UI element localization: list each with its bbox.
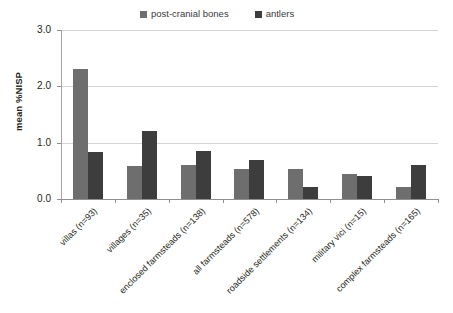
x-axis-label-text: villages (n=35) bbox=[104, 206, 153, 255]
legend-entry-post-cranial-bones: post-cranial bones bbox=[140, 9, 229, 19]
x-axis-label-text: villas (n=93) bbox=[57, 206, 99, 248]
bar-group bbox=[61, 30, 115, 199]
legend-entry-antlers: antlers bbox=[255, 9, 295, 19]
y-axis-title: mean %NISP bbox=[13, 62, 24, 142]
x-axis-label-text: military vici (n=15) bbox=[310, 206, 369, 265]
legend-label-antlers: antlers bbox=[266, 9, 295, 19]
legend-label-post-cranial-bones: post-cranial bones bbox=[151, 9, 229, 19]
bar-post-cranial-bones bbox=[73, 69, 88, 199]
y-tick-label: 1.0 bbox=[7, 138, 51, 148]
bar-antlers bbox=[142, 131, 157, 199]
y-tick-label: 2.0 bbox=[7, 81, 51, 91]
bar-antlers bbox=[88, 152, 103, 199]
bar-post-cranial-bones bbox=[396, 187, 411, 199]
bar-antlers bbox=[411, 165, 426, 199]
x-axis-labels: villas (n=93)villages (n=35)enclosed far… bbox=[0, 200, 453, 313]
chart-figure: post-cranial bones antlers mean %NISP 0.… bbox=[0, 0, 453, 313]
x-axis-label-text: enclosed farmsteads (n=138) bbox=[117, 206, 207, 296]
plot-area: 0.01.02.03.0 bbox=[61, 30, 438, 199]
bar-series-container bbox=[61, 30, 438, 199]
chart-legend: post-cranial bones antlers bbox=[140, 6, 370, 22]
legend-swatch-antlers bbox=[255, 11, 262, 18]
x-axis-label-text: roadside settlements (n=134) bbox=[225, 206, 315, 296]
bar-antlers bbox=[196, 151, 211, 199]
legend-swatch-post-cranial-bones bbox=[140, 11, 147, 18]
y-tick-label: 3.0 bbox=[7, 25, 51, 35]
